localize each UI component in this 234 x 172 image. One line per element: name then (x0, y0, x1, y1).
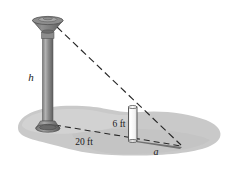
label-pole-height: 6 ft (113, 119, 126, 129)
lamp-shadow-diagram: h 6 ft 20 ft a (0, 0, 234, 172)
label-shadow-length: a (154, 146, 159, 157)
label-lamp-height: h (28, 71, 34, 83)
label-base-distance: 20 ft (75, 137, 93, 147)
pole-top-cap (128, 106, 137, 109)
pole-bottom-cap (128, 140, 137, 143)
vertical-pole-icon (128, 106, 137, 143)
lamp-shade-bottom-rim (42, 30, 54, 33)
figure-container: h 6 ft 20 ft a (0, 0, 234, 172)
lamp-shaft (43, 38, 54, 121)
lamp-finial (43, 17, 52, 20)
pole-body (129, 107, 138, 141)
lamp-base-ring (39, 125, 56, 130)
